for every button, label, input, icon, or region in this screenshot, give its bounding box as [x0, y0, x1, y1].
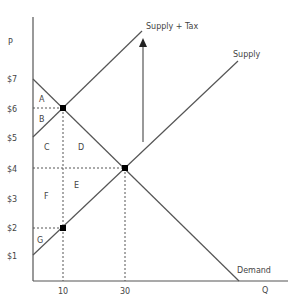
y-tick-7: $7	[7, 75, 17, 84]
point-producer-price	[60, 225, 66, 231]
supply-tax-label: Supply + Tax	[146, 22, 199, 31]
point-equilibrium	[122, 165, 128, 171]
area-g-label: G	[37, 236, 43, 245]
area-e-label: E	[74, 181, 79, 190]
y-tick-3: $3	[7, 195, 17, 204]
arrow-up-icon	[139, 38, 147, 47]
area-c-label: C	[44, 143, 50, 152]
p-axis-label: P	[8, 38, 13, 47]
tax-incidence-chart: P Q $7 $6 $5 $4 $3 $2 $1 10 30 Supply + …	[0, 0, 299, 308]
y-tick-4: $4	[7, 165, 17, 174]
y-tick-2: $2	[7, 224, 17, 233]
y-tick-5: $5	[7, 134, 17, 143]
y-tick-6: $6	[7, 105, 17, 114]
point-consumer-price	[60, 105, 66, 111]
area-b-label: B	[39, 115, 45, 124]
q-axis-label: Q	[262, 286, 268, 295]
supply-label: Supply	[233, 50, 261, 59]
x-tick-30: 30	[120, 287, 130, 296]
area-a-label: A	[39, 95, 45, 104]
x-tick-10: 10	[58, 287, 68, 296]
area-f-label: F	[44, 192, 49, 201]
area-d-label: D	[78, 143, 84, 152]
demand-label: Demand	[237, 266, 271, 275]
y-tick-1: $1	[7, 252, 17, 261]
supply-tax-curve	[33, 31, 142, 137]
